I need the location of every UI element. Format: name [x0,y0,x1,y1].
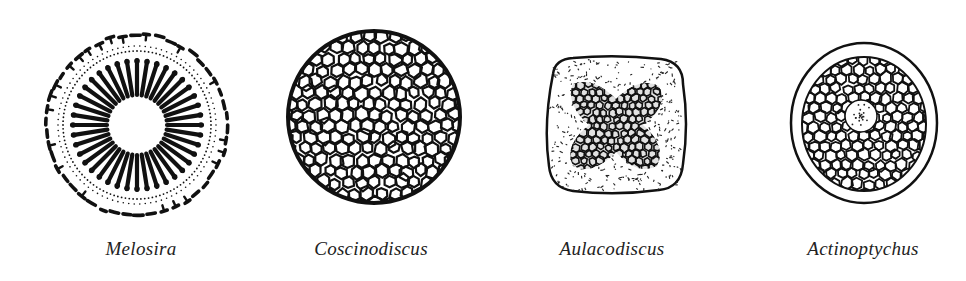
aulacodiscus-illustration [543,54,689,196]
melosira-label: Melosira [105,238,176,260]
aulacodiscus-drawing [543,54,689,196]
actinoptychus-drawing [788,40,940,206]
aulacodiscus-label: Aulacodiscus [560,238,665,260]
coscinodiscus-drawing [284,27,464,207]
coscinodiscus-label: Coscinodiscus [314,238,428,260]
melosira-drawing [40,28,234,222]
melosira-illustration [40,28,234,222]
coscinodiscus-illustration [284,27,464,207]
actinoptychus-label: Actinoptychus [807,238,919,260]
actinoptychus-illustration [788,40,940,206]
